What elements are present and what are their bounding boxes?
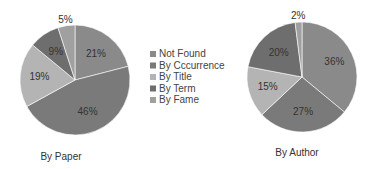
legend-entry: By Title <box>159 71 192 82</box>
data-label: 5% <box>58 14 73 25</box>
legend-entry: Not Found <box>159 48 206 59</box>
data-label: 2% <box>291 10 306 21</box>
data-label: 9% <box>49 46 64 57</box>
data-label: 21% <box>86 48 106 59</box>
data-label: 19% <box>29 71 49 82</box>
legend-entry: By Term <box>159 83 196 94</box>
legend-swatch <box>150 51 156 57</box>
data-label: 15% <box>258 81 278 92</box>
legend-swatch <box>150 63 156 69</box>
legend: Not FoundBy CccurrenceBy TitleBy TermBy … <box>150 48 225 105</box>
data-label: 20% <box>269 47 289 58</box>
legend-swatch <box>150 97 156 103</box>
legend-swatch <box>150 86 156 92</box>
data-label: 36% <box>324 56 344 67</box>
pie-by-paper: 21%46%19%9%5% <box>20 14 130 135</box>
data-label: 46% <box>78 106 98 117</box>
data-label: 27% <box>293 106 313 117</box>
caption-by-author: By Author <box>275 147 319 158</box>
pie-by-author: 36%27%15%20%2% <box>247 10 357 132</box>
legend-entry: By Cccurrence <box>159 60 225 71</box>
legend-swatch <box>150 74 156 80</box>
caption-by-paper: By Paper <box>40 151 82 162</box>
legend-entry: By Fame <box>159 94 199 105</box>
pie-charts: 21%46%19%9%5% By Paper Not FoundBy Cccur… <box>0 0 376 169</box>
